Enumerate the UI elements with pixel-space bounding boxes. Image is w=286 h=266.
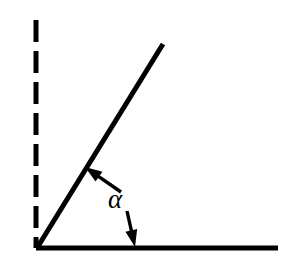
angle-alpha-label: α (108, 186, 122, 213)
angle-diagram-figure: α (0, 0, 286, 266)
diagram-canvas (0, 0, 286, 266)
canvas-background (0, 0, 286, 266)
